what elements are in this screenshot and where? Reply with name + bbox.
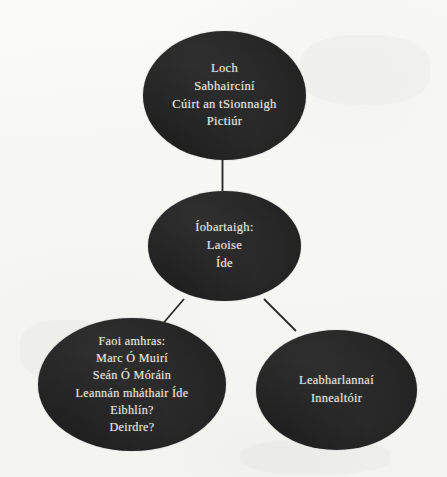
- victims-node: Íobartaigh: Laoise Íde: [148, 191, 301, 301]
- node-line: Pictiúr: [207, 113, 243, 131]
- node-line: Faoi amhras:: [99, 333, 166, 350]
- node-line: Leabharlannaí: [299, 372, 374, 390]
- node-line: Loch: [211, 60, 238, 78]
- node-line: Sabhaircíní: [194, 78, 255, 96]
- suspects-node: Faoi amhras: Marc Ó Muirí Seán Ó Móráin …: [38, 318, 226, 451]
- node-line: Innealtóir: [311, 390, 362, 408]
- diagram-page: Loch Sabhaircíní Cúirt an tSionnaigh Pic…: [0, 0, 447, 477]
- node-line: Marc Ó Muirí: [96, 350, 168, 367]
- node-line: Seán Ó Móráin: [93, 367, 171, 384]
- node-line: Íobartaigh:: [195, 219, 254, 237]
- node-line: Deirdre?: [109, 419, 154, 436]
- places-node: Loch Sabhaircíní Cúirt an tSionnaigh Pic…: [143, 31, 306, 160]
- node-line: Eibhlín?: [110, 402, 154, 419]
- occupations-node: Leabharlannaí Innealtóir: [256, 330, 417, 450]
- node-line: Leannán mháthair Íde: [76, 385, 189, 402]
- node-line: Íde: [216, 255, 233, 273]
- node-line: Cúirt an tSionnaigh: [172, 96, 276, 114]
- node-line: Laoise: [207, 237, 242, 255]
- link-middle-occupations: [264, 299, 296, 331]
